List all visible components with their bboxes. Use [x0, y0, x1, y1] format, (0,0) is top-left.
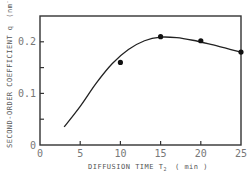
x-tick-label: 0: [37, 148, 43, 159]
chart: 00.10.2 0510152025 SECOND-ORDER COEFFICI…: [0, 0, 249, 175]
data-point: [198, 38, 203, 43]
x-tick-label: 15: [155, 148, 167, 159]
x-axis-label: DIFFUSION TIME T2( min ): [88, 163, 208, 172]
y-tick-label: 0: [30, 140, 36, 151]
x-tick-label: 20: [195, 148, 207, 159]
data-point: [238, 50, 243, 55]
x-tick-label: 25: [235, 148, 247, 159]
data-point: [118, 60, 123, 65]
x-tick-label: 5: [77, 148, 83, 159]
y-axis-label: SECOND-ORDER COEFFICIENT q (nm-1): [4, 0, 14, 148]
x-axis-ticks: 0510152025: [37, 141, 247, 159]
y-tick-label: 0.1: [18, 88, 36, 99]
y-tick-label: 0.2: [18, 36, 36, 47]
plot-frame: [40, 16, 241, 145]
fitted-curve: [64, 37, 241, 127]
data-point: [158, 34, 163, 39]
x-tick-label: 10: [114, 148, 126, 159]
